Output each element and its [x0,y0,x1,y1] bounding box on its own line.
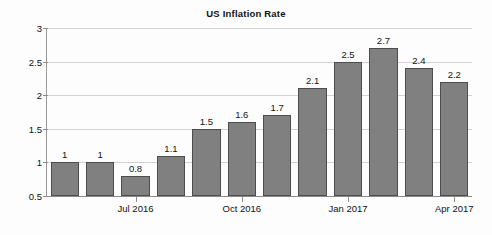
bar-value-label: 2.2 [448,69,461,80]
bar[interactable] [121,176,149,196]
bar[interactable] [334,62,362,196]
y-axis-tick-mark [43,95,48,96]
y-axis-line [46,28,47,197]
bar-value-label: 1.6 [235,109,248,120]
y-axis-labels: 0.511.522.53 [0,0,42,235]
bar[interactable] [51,162,79,196]
gridline [47,62,472,63]
x-axis-tick-label: Oct 2016 [223,203,262,214]
bar[interactable] [228,122,256,196]
bar-value-label: 1.1 [164,143,177,154]
bar[interactable] [298,88,326,196]
bar-value-label: 1 [62,149,67,160]
x-axis-tick-mark [242,197,243,202]
bar[interactable] [405,68,433,196]
chart-title: US Inflation Rate [0,8,492,19]
bar[interactable] [157,156,185,196]
y-axis-tick-label: 2 [2,90,42,101]
y-axis-tick-mark [43,28,48,29]
y-axis-tick-mark [43,129,48,130]
y-axis-tick-label: 1 [2,157,42,168]
plot-area [47,28,472,196]
bar-value-label: 1.5 [200,116,213,127]
x-axis-tick-label: Jul 2016 [118,203,154,214]
bar[interactable] [440,82,468,196]
gridline [47,28,472,29]
y-axis-tick-label: 2.5 [2,56,42,67]
bar-value-label: 1 [97,149,102,160]
bar-value-label: 2.7 [377,35,390,46]
y-axis-tick-label: 3 [2,23,42,34]
y-axis-tick-mark [43,62,48,63]
x-axis-line [47,196,472,197]
x-axis-tick-mark [348,197,349,202]
inflation-bar-chart: US Inflation Rate 0.511.522.53 110.81.11… [0,0,492,235]
y-axis-tick-mark [43,162,48,163]
y-axis-tick-label: 0.5 [2,191,42,202]
x-axis-tick-label: Jan 2017 [328,203,367,214]
bar-value-label: 2.4 [412,55,425,66]
x-axis-tick-mark [136,197,137,202]
bar-value-label: 2.5 [341,49,354,60]
x-axis-tick-mark [454,197,455,202]
bar-value-label: 1.7 [271,102,284,113]
bar[interactable] [369,48,397,196]
bar[interactable] [263,115,291,196]
bar-value-label: 2.1 [306,75,319,86]
bar[interactable] [192,129,220,196]
bar-value-label: 0.8 [129,163,142,174]
bar[interactable] [86,162,114,196]
x-axis-tick-label: Apr 2017 [435,203,474,214]
y-axis-tick-mark [43,196,48,197]
y-axis-tick-label: 1.5 [2,123,42,134]
